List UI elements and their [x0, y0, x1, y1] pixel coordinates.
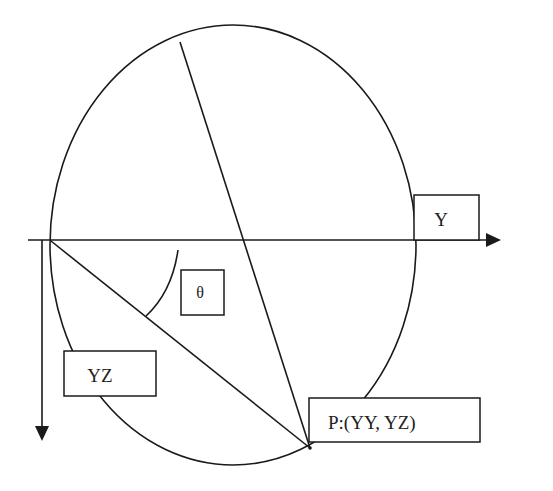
vertical-axis-arrowhead-icon: [35, 426, 49, 441]
diagram-canvas: Y θ YZ P:(YY, YZ): [0, 0, 553, 491]
diameter-line: [180, 42, 310, 448]
y-axis-label: Y: [434, 209, 448, 230]
angle-arc: [146, 250, 178, 316]
horizontal-axis-arrowhead-icon: [486, 233, 501, 247]
vertical-label-box: YZ: [64, 351, 156, 396]
angle-label: θ: [196, 284, 204, 301]
point-label-box: P:(YY, YZ): [309, 398, 480, 442]
point-p-marker: [308, 446, 312, 450]
angle-label-box: θ: [181, 270, 224, 315]
y-axis-label-box: Y: [414, 195, 479, 240]
point-label: P:(YY, YZ): [328, 412, 416, 434]
vertical-label: YZ: [87, 365, 112, 386]
vertical-axis: [35, 240, 49, 441]
